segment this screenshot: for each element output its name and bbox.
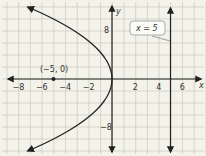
x-tick-label: −4 — [59, 83, 71, 92]
x-tick-label: 4 — [156, 83, 161, 92]
x-tick-label: −8 — [13, 83, 25, 92]
focus-point-label: (−5, 0) — [40, 65, 68, 74]
y-tick-label-bottom: −8 — [100, 123, 112, 132]
y-axis-label: y — [115, 7, 121, 16]
directrix-callout-text: x = 5 — [135, 24, 158, 33]
x-tick-label: 2 — [133, 83, 138, 92]
parabola-graph: (−5, 0) −8−6−4−2246 8 −8 x y x = 5 — [0, 0, 206, 156]
y-tick-label-top: 8 — [104, 26, 109, 35]
focus-point — [52, 77, 56, 81]
x-tick-label: −6 — [36, 83, 48, 92]
x-tick-label: −2 — [83, 83, 95, 92]
x-axis-label: x — [198, 81, 204, 90]
x-tick-label: 6 — [180, 83, 185, 92]
